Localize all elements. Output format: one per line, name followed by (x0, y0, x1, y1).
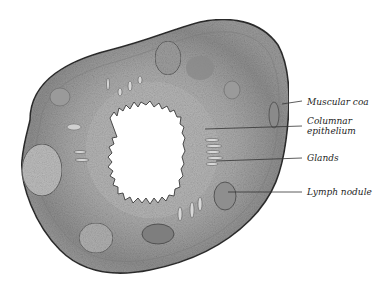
label-columnar-epithelium-line2: epithelium (307, 126, 356, 136)
label-muscular-coat: Muscular coa (307, 97, 369, 107)
label-glands: Glands (307, 153, 339, 163)
appendix-cross-section-illustration (0, 0, 384, 295)
label-lymph-nodule: Lymph nodule (307, 187, 372, 197)
label-columnar-epithelium-line1: Columnar (307, 116, 352, 126)
lumen (108, 101, 185, 204)
